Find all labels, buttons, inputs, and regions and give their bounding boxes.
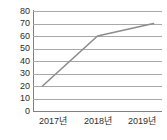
y-axis-tick-label: 10	[4, 94, 30, 103]
y-axis-tick-label: 70	[4, 19, 30, 28]
line-chart: 80 70 60 50 40 30 20 10 0 2017년 2018년 20…	[0, 0, 167, 140]
y-axis-tick-label: 50	[4, 44, 30, 53]
y-axis-tick-label: 0	[4, 107, 30, 116]
x-axis-line	[33, 111, 162, 112]
x-axis-tick-label: 2019년	[110, 116, 167, 127]
y-axis-tick-label: 60	[4, 32, 30, 41]
data-series-line	[33, 11, 162, 111]
y-axis-tick-label: 20	[4, 82, 30, 91]
plot-area	[33, 11, 162, 111]
y-axis-tick-label: 40	[4, 57, 30, 66]
y-axis-tick-label: 80	[4, 7, 30, 16]
x-axis-tick-labels: 2017년 2018년 2019년	[33, 116, 167, 134]
y-axis-tick-label: 30	[4, 69, 30, 78]
